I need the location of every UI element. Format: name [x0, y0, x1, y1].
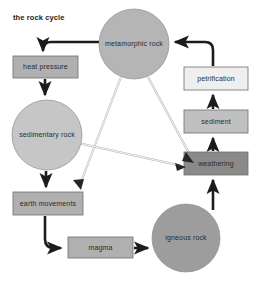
diagram-canvas: the rock cycle: [0, 0, 260, 285]
metamorphic-rock-label: metamorphic rock: [105, 40, 163, 48]
magma-label: magma: [88, 244, 112, 252]
edge-sedimentary-to-weathering-inner: [78, 143, 182, 166]
node-igneous-rock[interactable]: igneous rock: [152, 204, 220, 272]
node-metamorphic-rock[interactable]: metamorphic rock: [99, 9, 169, 79]
igneous-rock-label: igneous rock: [165, 234, 207, 242]
weathering-label: weathering: [197, 160, 234, 168]
node-petrification[interactable]: petrification: [184, 67, 248, 90]
node-magma[interactable]: magma: [68, 237, 133, 258]
page-title: the rock cycle: [13, 13, 64, 22]
heat-pressure-label: heat pressure: [23, 63, 68, 71]
petrification-label: petrification: [197, 75, 235, 83]
rock-cycle-diagram: the rock cycle: [0, 0, 260, 285]
sedimentary-rock-label: sedimentary rock: [19, 131, 75, 139]
sediment-label: sediment: [201, 118, 231, 125]
edge-layer-thin: [78, 77, 190, 187]
node-sediment[interactable]: sediment: [184, 110, 248, 133]
edge-earth-movements-to-magma: [45, 216, 61, 248]
earth-movements-label: earth movements: [20, 200, 77, 207]
node-sedimentary-rock[interactable]: sedimentary rock: [12, 100, 82, 170]
arrowhead-metamorphic-to-earth-movements: [73, 179, 84, 190]
node-earth-movements[interactable]: earth movements: [13, 192, 83, 215]
node-weathering[interactable]: weathering: [184, 152, 248, 175]
node-heat-pressure[interactable]: heat pressure: [13, 56, 78, 78]
edge-metamorphic-to-earth-movements-inner: [79, 77, 121, 187]
edge-metamorphic-to-heat-pressure: [43, 42, 99, 51]
edge-petrification-to-metamorphic: [175, 42, 213, 66]
